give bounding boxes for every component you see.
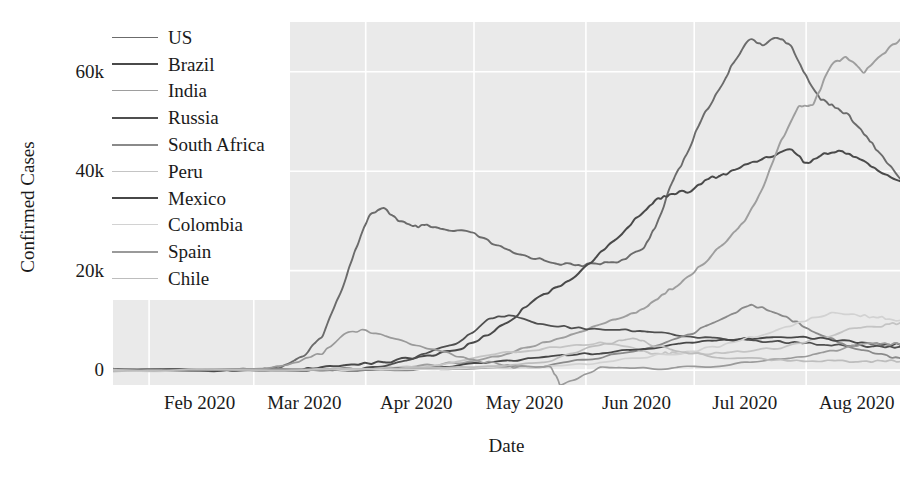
legend-item-label: Brazil (168, 55, 214, 74)
legend-swatch-icon (112, 171, 158, 172)
legend-item-label: Russia (168, 108, 219, 127)
legend-item-label: Chile (168, 269, 209, 288)
y-tick-label: 60k (44, 62, 104, 81)
x-tick-label: Apr 2020 (356, 392, 476, 414)
legend-item-brazil[interactable]: Brazil (112, 51, 284, 78)
x-tick-label: Mar 2020 (244, 392, 364, 414)
x-tick-label: Jun 2020 (576, 392, 696, 414)
chart-figure: Confirmed Cases 020k40k60k Feb 2020Mar 2… (0, 0, 921, 489)
legend-item-peru[interactable]: Peru (112, 158, 284, 185)
chart-legend: USBrazilIndiaRussiaSouth AfricaPeruMexic… (106, 18, 290, 300)
legend-item-india[interactable]: India (112, 78, 284, 105)
legend-swatch-icon (112, 63, 158, 65)
x-tick-label: Feb 2020 (140, 392, 260, 414)
legend-swatch-icon (112, 37, 158, 38)
legend-swatch-icon (112, 144, 158, 146)
legend-swatch-icon (112, 251, 158, 253)
x-axis-label: Date (113, 435, 900, 457)
legend-item-south-africa[interactable]: South Africa (112, 131, 284, 158)
y-tick-label: 20k (44, 261, 104, 280)
x-tick-label: Aug 2020 (797, 392, 917, 414)
legend-swatch-icon (112, 224, 158, 225)
legend-swatch-icon (112, 90, 158, 91)
legend-item-label: Colombia (168, 215, 243, 234)
x-tick-label: Jul 2020 (685, 392, 805, 414)
y-tick-label: 40k (44, 161, 104, 180)
legend-item-spain[interactable]: Spain (112, 238, 284, 265)
y-axis-ticks: 020k40k60k (36, 0, 104, 489)
legend-item-colombia[interactable]: Colombia (112, 212, 284, 239)
legend-item-mexico[interactable]: Mexico (112, 185, 284, 212)
legend-item-label: Spain (168, 242, 211, 261)
legend-item-label: US (168, 28, 192, 47)
legend-swatch-icon (112, 117, 158, 119)
legend-item-label: India (168, 81, 207, 100)
legend-swatch-icon (112, 278, 158, 279)
legend-item-russia[interactable]: Russia (112, 104, 284, 131)
y-tick-label: 0 (44, 360, 104, 379)
x-tick-label: May 2020 (465, 392, 585, 414)
legend-item-label: Peru (168, 162, 203, 181)
legend-item-label: Mexico (168, 189, 226, 208)
legend-item-us[interactable]: US (112, 24, 284, 51)
legend-item-chile[interactable]: Chile (112, 265, 284, 292)
legend-swatch-icon (112, 197, 158, 199)
legend-item-label: South Africa (168, 135, 265, 154)
